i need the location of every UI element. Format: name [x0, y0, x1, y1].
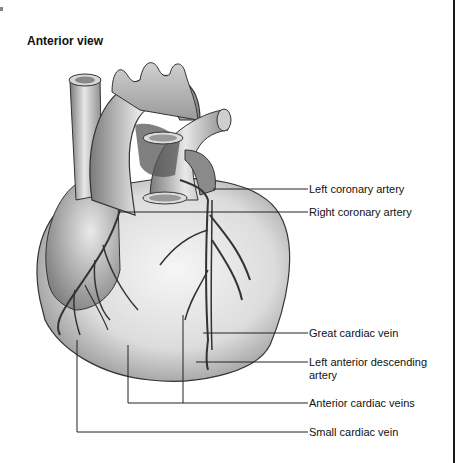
- label-lad-line2: artery: [309, 369, 427, 382]
- label-right-coronary-artery: Right coronary artery: [309, 206, 412, 219]
- label-great-cardiac-vein: Great cardiac vein: [309, 327, 398, 340]
- label-lad-line1: Left anterior descending: [309, 356, 427, 369]
- label-anterior-cardiac-veins: Anterior cardiac veins: [309, 397, 415, 410]
- label-left-coronary-artery: Left coronary artery: [309, 183, 404, 196]
- label-left-anterior-descending-artery: Left anterior descending artery: [309, 356, 427, 382]
- heart-illustration: [0, 0, 461, 463]
- label-small-cardiac-vein: Small cardiac vein: [309, 426, 398, 439]
